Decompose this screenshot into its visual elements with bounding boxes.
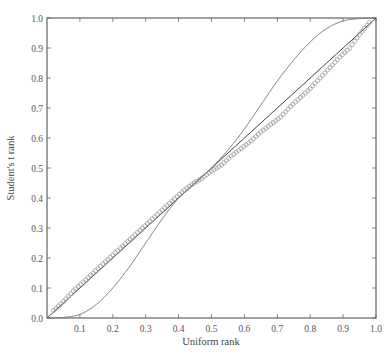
data-marker — [101, 262, 105, 266]
data-marker — [118, 246, 122, 250]
data-marker — [301, 93, 305, 97]
data-marker — [306, 89, 310, 93]
data-marker — [323, 71, 327, 75]
y-tick-label: 0.9 — [31, 44, 43, 54]
data-marker — [138, 228, 142, 232]
y-axis-label: Student's t rank — [5, 135, 16, 201]
data-marker — [222, 161, 226, 165]
data-marker — [167, 201, 171, 205]
x-tick-label: 1.0 — [370, 324, 382, 334]
data-marker — [338, 55, 342, 59]
data-marker — [340, 53, 344, 57]
data-marker — [106, 257, 110, 261]
y-tick-label: 0.8 — [31, 74, 43, 84]
data-marker — [343, 50, 347, 54]
chart: 0.10.20.30.40.50.60.70.80.91.00.00.10.20… — [0, 0, 390, 362]
y-tick-label: 0.7 — [31, 104, 43, 114]
data-marker — [291, 102, 295, 106]
data-marker — [335, 58, 339, 62]
data-marker — [111, 253, 115, 257]
y-tick-label: 0.4 — [31, 194, 43, 204]
series-layer — [47, 18, 376, 318]
data-marker — [128, 237, 132, 241]
x-tick-label: 0.9 — [337, 324, 349, 334]
data-marker — [86, 275, 90, 279]
data-marker — [293, 100, 297, 104]
data-marker — [227, 156, 231, 160]
data-marker — [66, 294, 70, 298]
data-marker — [308, 86, 312, 90]
data-marker — [108, 255, 112, 259]
data-marker — [313, 81, 317, 85]
data-marker — [224, 158, 228, 162]
data-marker — [123, 242, 127, 246]
data-marker — [96, 266, 100, 270]
data-marker — [76, 284, 80, 288]
data-marker — [74, 287, 78, 291]
data-marker — [281, 112, 285, 116]
data-marker — [163, 206, 167, 210]
data-marker — [177, 192, 181, 196]
y-tick-label: 0.2 — [31, 254, 43, 264]
data-marker — [130, 235, 134, 239]
data-marker — [311, 84, 315, 88]
data-marker — [150, 217, 154, 221]
data-marker — [328, 65, 332, 69]
data-marker — [158, 210, 162, 214]
data-marker — [79, 282, 83, 286]
y-tick-label: 1.0 — [31, 14, 43, 24]
data-marker — [165, 203, 169, 207]
data-marker — [135, 230, 139, 234]
data-marker — [316, 79, 320, 83]
y-tick-label: 0.0 — [31, 314, 43, 324]
x-tick-label: 0.5 — [206, 324, 218, 334]
data-marker — [330, 63, 334, 67]
data-marker — [155, 212, 159, 216]
data-marker — [148, 219, 152, 223]
x-tick-label: 0.6 — [238, 324, 250, 334]
data-marker — [286, 107, 290, 111]
data-marker — [69, 292, 73, 296]
y-tick-label: 0.6 — [31, 134, 43, 144]
tick-labels: 0.10.20.30.40.50.60.70.80.91.00.00.10.20… — [31, 14, 382, 335]
x-tick-label: 0.3 — [140, 324, 152, 334]
data-marker — [175, 194, 179, 198]
data-marker — [333, 60, 337, 64]
data-marker — [81, 280, 85, 284]
data-marker — [325, 68, 329, 72]
data-marker — [254, 134, 258, 138]
data-marker — [126, 239, 130, 243]
x-axis-label: Uniform rank — [182, 336, 240, 347]
data-marker — [145, 221, 149, 225]
data-marker — [288, 104, 292, 108]
data-marker — [88, 273, 92, 277]
x-tick-label: 0.8 — [304, 324, 316, 334]
x-tick-label: 0.4 — [173, 324, 185, 334]
data-marker — [296, 98, 300, 102]
data-marker — [116, 248, 120, 252]
data-marker — [318, 76, 322, 80]
data-marker — [140, 226, 144, 230]
data-marker — [251, 137, 255, 141]
data-marker — [303, 91, 307, 95]
y-tick-label: 0.3 — [31, 224, 43, 234]
data-marker — [98, 264, 102, 268]
y-tick-label: 0.5 — [31, 164, 43, 174]
data-marker — [84, 278, 88, 282]
data-marker — [143, 224, 147, 228]
data-marker — [93, 269, 97, 273]
data-marker — [133, 233, 137, 237]
x-tick-label: 0.1 — [74, 324, 86, 334]
data-marker — [256, 132, 260, 136]
marker-series — [51, 20, 371, 312]
data-marker — [298, 95, 302, 99]
data-marker — [153, 215, 157, 219]
data-marker — [345, 48, 349, 52]
data-marker — [160, 208, 164, 212]
data-marker — [172, 197, 176, 201]
data-marker — [103, 260, 107, 264]
x-tick-label: 0.2 — [107, 324, 119, 334]
data-marker — [71, 289, 75, 293]
data-marker — [283, 110, 287, 114]
x-tick-label: 0.7 — [271, 324, 283, 334]
